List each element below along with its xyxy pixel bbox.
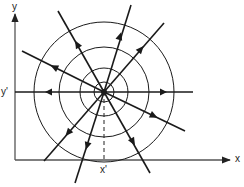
y-axis-label: y — [12, 2, 17, 12]
arrow-nnw — [72, 39, 82, 49]
axes — [15, 14, 230, 160]
arrow-nw — [49, 62, 59, 72]
source-point — [101, 89, 107, 95]
arrow-ssw — [82, 141, 91, 151]
arrow-west — [45, 89, 52, 96]
x-prime-label: x' — [100, 165, 107, 175]
y-prime-label: y' — [1, 87, 8, 97]
ray-se — [104, 92, 185, 131]
arrow-east — [160, 89, 167, 96]
ray-nne — [104, 5, 131, 92]
arrow-se — [149, 111, 159, 121]
ray-ne — [104, 23, 164, 92]
ray-sw — [44, 92, 104, 161]
field-diagram — [0, 0, 244, 187]
x-axis-label: x — [235, 154, 240, 164]
diagram-figure: y x y' x' — [0, 0, 244, 187]
ray-sse — [104, 92, 150, 173]
